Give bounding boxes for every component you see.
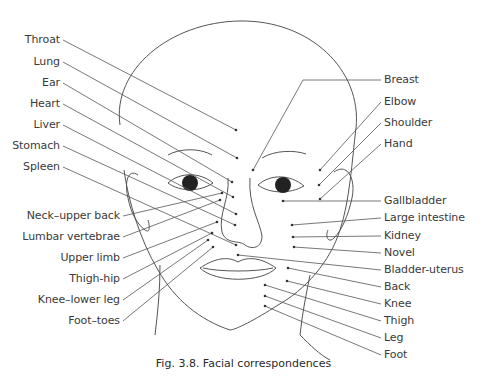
label-left: Ear <box>42 76 60 89</box>
label-left: Lumbar vertebrae <box>22 230 120 243</box>
head-outline <box>119 21 356 330</box>
nose <box>221 178 262 248</box>
label-right: Novel <box>384 246 415 259</box>
left-ear <box>126 173 149 231</box>
label-left: Foot–toes <box>68 314 120 327</box>
label-left: Heart <box>30 97 60 110</box>
label-left: Liver <box>34 118 61 131</box>
left-eyebrow <box>168 150 212 155</box>
label-right: Hand <box>384 137 413 150</box>
label-right: Bladder-uterus <box>384 263 464 276</box>
label-left: Throat <box>25 33 60 46</box>
figure-caption: Fig. 3.8. Facial correspondences <box>0 357 487 370</box>
right-eyebrow <box>262 151 306 158</box>
facial-correspondence-diagram: ThroatLungEarHeartLiverStomachSpleenNeck… <box>0 0 487 385</box>
label-left: Thigh-hip <box>69 272 120 285</box>
label-left: Spleen <box>23 160 60 173</box>
label-right: Elbow <box>384 95 416 108</box>
mouth <box>200 259 276 280</box>
label-left: Stomach <box>12 139 60 152</box>
left-iris <box>182 175 198 191</box>
label-left: Neck–upper back <box>27 209 120 222</box>
label-right: Breast <box>384 73 419 86</box>
label-right: Thigh <box>384 314 414 327</box>
label-right: Knee <box>384 297 411 310</box>
label-right: Back <box>384 280 410 293</box>
leader-lines <box>63 40 381 355</box>
label-left: Knee–lower leg <box>38 293 120 306</box>
label-right: Kidney <box>384 229 421 242</box>
right-iris <box>275 177 291 193</box>
label-left: Lung <box>34 55 60 68</box>
label-right: Gallbladder <box>384 194 446 207</box>
label-right: Leg <box>384 331 403 344</box>
face-illustration <box>0 0 487 385</box>
label-right: Large intestine <box>384 211 465 224</box>
label-right: Shoulder <box>384 116 432 129</box>
label-left: Upper limb <box>60 251 120 264</box>
